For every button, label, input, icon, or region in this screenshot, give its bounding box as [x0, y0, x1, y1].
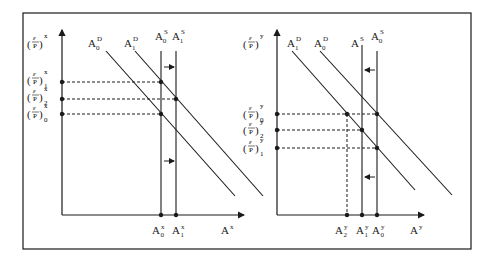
label-right-y-level-1: ( ε P ) y 1 [243, 136, 264, 158]
svg-text:): ) [255, 124, 259, 137]
right-eq-0 [375, 112, 379, 116]
svg-text:P: P [249, 112, 253, 120]
svg-text:P: P [249, 42, 253, 50]
right-x-point-0 [375, 213, 379, 217]
svg-text:P: P [33, 112, 37, 120]
svg-text:ε: ε [33, 70, 36, 78]
right-x-point-1 [360, 213, 364, 217]
left-point-y2 [60, 97, 64, 101]
svg-text:y: y [260, 136, 264, 144]
left-panel: AD0 AD1 AS0 AS1 ( ε P ) x ( ε P ) x 1 ( … [27, 28, 263, 239]
diagram-canvas: AD0 AD1 AS0 AS1 ( ε P ) x ( ε P ) x 1 ( … [0, 0, 490, 264]
svg-text:(: ( [27, 91, 31, 104]
left-eq-1 [159, 80, 163, 84]
svg-text:(: ( [243, 38, 247, 51]
left-point-y0 [60, 112, 64, 116]
label-right-x-2: Ay2 [335, 223, 348, 239]
label-left-a1d: AD1 [124, 35, 138, 52]
label-left-x-1: Ax1 [172, 223, 185, 239]
label-right-a1d: AD1 [287, 35, 301, 52]
svg-text:(: ( [243, 108, 247, 121]
svg-text:): ) [39, 38, 43, 51]
label-left-a0s: AS0 [155, 28, 168, 45]
svg-text:(: ( [27, 74, 31, 87]
label-left-x-axis: Ax [221, 223, 234, 236]
svg-text:P: P [249, 128, 253, 136]
right-eq-a [345, 112, 349, 116]
svg-text:P: P [33, 95, 37, 103]
svg-text:): ) [39, 74, 43, 87]
svg-text:x: x [44, 68, 48, 76]
label-left-y-axis: ( ε P ) x [27, 32, 48, 51]
right-panel: AD1 AD0 AS AS0 ( ε P ) y ( ε P ) y 0 ( ε… [243, 28, 452, 239]
svg-text:(: ( [243, 124, 247, 137]
svg-text:): ) [255, 108, 259, 121]
left-eq-0 [159, 112, 163, 116]
right-x-point-2 [345, 213, 349, 217]
label-right-x-0: Ay0 [372, 223, 385, 239]
svg-text:x: x [44, 32, 48, 40]
right-point-y0 [275, 112, 279, 116]
svg-text:x: x [44, 85, 48, 93]
right-eq-1 [375, 146, 379, 150]
label-right-a0d: AD0 [314, 35, 328, 52]
label-right-a0s: AS0 [371, 28, 384, 45]
label-right-x-axis: Ay [410, 223, 423, 236]
right-point-y1 [275, 146, 279, 150]
left-x-point-1 [174, 213, 178, 217]
svg-text:ε: ε [249, 104, 252, 112]
left-demand-a0d [106, 51, 235, 196]
svg-text:): ) [255, 142, 259, 155]
svg-text:y: y [260, 102, 264, 110]
svg-text:y: y [260, 32, 264, 40]
svg-text:(: ( [27, 38, 31, 51]
svg-text:1: 1 [260, 150, 264, 158]
svg-text:ε: ε [249, 34, 252, 42]
right-demand-a0d [320, 51, 452, 195]
svg-text:x: x [44, 102, 48, 110]
svg-text:): ) [39, 108, 43, 121]
right-eq-2 [360, 128, 364, 132]
label-right-y-axis: ( ε P ) y [243, 32, 264, 51]
label-left-a0d: AD0 [88, 35, 102, 52]
svg-text:): ) [39, 91, 43, 104]
label-left-y-level-0: ( ε P ) x 0 [27, 102, 48, 124]
left-eq-2 [174, 97, 178, 101]
label-right-x-1: Ay1 [356, 223, 369, 239]
right-demand-a1d [292, 51, 415, 190]
left-point-y1 [60, 80, 64, 84]
label-left-x-0: Ax0 [152, 223, 165, 239]
svg-text:ε: ε [33, 34, 36, 42]
left-x-point-0 [159, 213, 163, 217]
label-left-a1s: AS1 [172, 28, 185, 45]
svg-text:ε: ε [33, 87, 36, 95]
svg-text:): ) [255, 38, 259, 51]
right-point-y2 [275, 128, 279, 132]
svg-text:P: P [33, 42, 37, 50]
svg-text:P: P [249, 146, 253, 154]
svg-text:P: P [33, 78, 37, 86]
svg-text:0: 0 [44, 116, 48, 124]
svg-text:ε: ε [249, 138, 252, 146]
svg-text:(: ( [27, 108, 31, 121]
svg-text:ε: ε [249, 120, 252, 128]
svg-text:ε: ε [33, 104, 36, 112]
svg-text:y: y [260, 118, 264, 126]
svg-text:(: ( [243, 142, 247, 155]
